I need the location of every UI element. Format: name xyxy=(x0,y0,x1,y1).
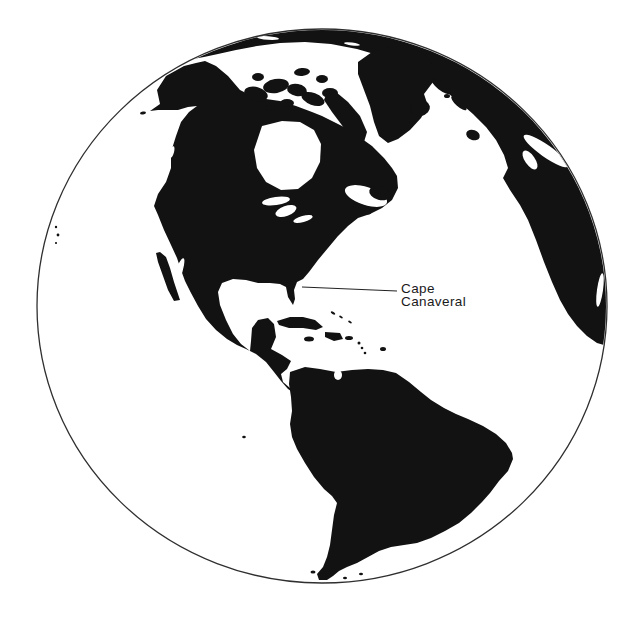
pacific-islet xyxy=(55,242,57,244)
jamaica xyxy=(304,337,314,342)
islet xyxy=(358,342,361,345)
falkland-islet xyxy=(359,573,363,576)
islet xyxy=(265,105,275,111)
trinidad xyxy=(380,347,386,351)
puerto-rico xyxy=(345,336,353,340)
cape-canaveral-label-line2: Canaveral xyxy=(401,295,466,308)
islet xyxy=(444,94,450,98)
pacific-islet xyxy=(55,226,57,228)
tierra-del-fuego-islet xyxy=(311,571,316,574)
islet xyxy=(252,73,264,81)
lake-maracaibo-inlet xyxy=(334,370,342,380)
cape-canaveral-label: Cape Canaveral xyxy=(401,282,466,308)
galapagos-islet xyxy=(242,436,246,438)
tierra-del-fuego-islet xyxy=(343,577,347,579)
globe-map-figure: Cape Canaveral xyxy=(0,0,643,618)
sea-inlet xyxy=(569,145,584,159)
islet xyxy=(316,75,328,83)
islet xyxy=(364,352,367,355)
pacific-islet xyxy=(57,234,60,237)
islet xyxy=(361,347,364,350)
globe-map-svg xyxy=(0,0,643,618)
islet xyxy=(280,99,294,107)
